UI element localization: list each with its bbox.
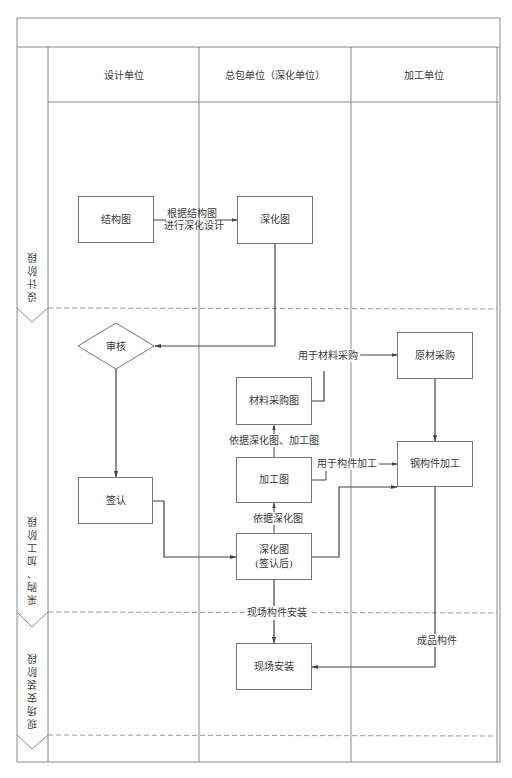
node-site-install-label: 现场安装 [254, 660, 294, 674]
edge-detail-to-review [155, 244, 275, 346]
phase-chevron-1 [17, 308, 48, 322]
phase-separator-1 [48, 308, 497, 309]
edge-label-for-fabrication: 用于构件加工 [315, 457, 379, 470]
node-site-installation: 现场安装 [236, 643, 312, 690]
node-detail-signed-line2: (签认后) [255, 557, 293, 571]
edge-process-to-fab-a [312, 471, 326, 480]
node-process-drawing-label: 加工图 [259, 473, 289, 487]
node-structure-drawing: 结构图 [78, 196, 154, 243]
phase-label-install: 现场安装阶段 [17, 627, 48, 729]
edge-label-based-on-structure-2: 进行深化设计 [164, 219, 220, 232]
phase-separator-3 [48, 735, 497, 736]
node-sign-off: 签认 [78, 477, 153, 524]
phase-label-procure: 采购、加工阶段 [17, 322, 48, 605]
phase-chevron-2 [17, 612, 48, 627]
edge-material-to-raw-a [312, 371, 324, 401]
edge-label-site-component-install: 现场构件安装 [245, 606, 309, 619]
phase-label-design: 设计阶段 [17, 102, 48, 302]
edge-label-based-on-detail-process: 依据深化图、加工图 [227, 434, 321, 447]
node-process-drawing: 加工图 [236, 457, 312, 503]
node-detail-signed-line1: 深化图 [259, 543, 289, 557]
phase-label-procure-text: 采购、加工阶段 [25, 514, 40, 605]
node-structure-drawing-label: 结构图 [101, 213, 131, 227]
node-steel-fab-label: 钢构件加工 [410, 457, 460, 471]
phase-label-design-text: 设计阶段 [25, 250, 40, 302]
lane-header-fabricator: 加工单位 [351, 47, 497, 102]
node-raw-material-label: 原材采购 [415, 349, 455, 363]
node-review-label: 审核 [96, 340, 136, 353]
phase-label-install-text: 现场安装阶段 [25, 651, 40, 729]
lane-header-design: 设计单位 [48, 47, 199, 102]
edge-label-finished-component: 成品构件 [415, 634, 459, 647]
lane-header-general-contractor: 总包单位（深化单位） [199, 47, 351, 102]
node-steel-fabrication: 钢构件加工 [397, 441, 473, 487]
edge-label-based-on-detail: 依据深化图 [251, 512, 305, 525]
phase-chevron-3 [17, 735, 48, 749]
node-sign-off-label: 签认 [106, 494, 126, 508]
node-detail-drawing-label: 深化图 [260, 213, 290, 227]
node-raw-material-procurement: 原材采购 [397, 332, 473, 379]
node-detail-drawing: 深化图 [237, 196, 313, 244]
edge-detail-signed-to-fab [312, 487, 397, 557]
node-material-drawing-label: 材料采购图 [249, 394, 299, 408]
edge-label-for-material: 用于材料采购 [296, 349, 360, 362]
node-detail-drawing-signed: 深化图 (签认后) [236, 533, 312, 580]
edge-signoff-to-detail-signed [153, 501, 236, 557]
node-material-procurement-drawing: 材料采购图 [236, 377, 312, 425]
